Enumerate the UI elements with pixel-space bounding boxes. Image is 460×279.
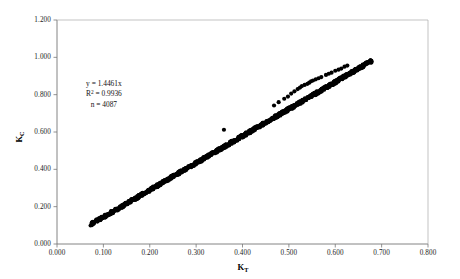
data-point (277, 100, 281, 104)
data-point (286, 94, 290, 98)
x-axis-title-subscript: T (244, 266, 248, 273)
y-axis-ticks (54, 20, 58, 244)
x-axis-tick-label: 0.400 (234, 249, 251, 257)
x-axis-tick-label: 0.100 (95, 249, 112, 257)
y-axis-tick-label: 1.000 (0, 53, 51, 61)
scatter-chart: 0.0000.1000.2000.3000.4000.5000.6000.700… (0, 0, 460, 279)
x-axis-tick-label: 0.500 (281, 249, 298, 257)
y-axis-tick-label: 0.800 (0, 91, 51, 99)
x-axis-ticks (57, 244, 428, 248)
x-axis-tick-label: 0.200 (141, 249, 158, 257)
data-point (329, 71, 333, 75)
data-point (333, 82, 337, 86)
data-point (272, 103, 276, 107)
sample-size-line: n = 4087 (86, 100, 122, 110)
data-point (222, 128, 226, 132)
r-squared-line: R2 = 0.9936 (86, 89, 122, 99)
data-point (345, 63, 349, 67)
fit-annotation: y = 1.4461x R2 = 0.9936 n = 4087 (86, 79, 122, 110)
r-squared-value: = 0.9936 (95, 89, 121, 98)
y-axis-title-subscript: C (17, 131, 24, 135)
y-axis-tick-label: 0.200 (0, 203, 51, 211)
x-axis-title-base: K (238, 262, 245, 272)
y-axis-title-base: K (14, 136, 24, 143)
x-axis-tick-label: 0.000 (49, 249, 66, 257)
fit-equation: y = 1.4461x (86, 79, 122, 89)
x-axis-tick-label: 0.700 (373, 249, 390, 257)
data-point (369, 59, 373, 63)
data-point (292, 106, 296, 110)
data-point (298, 85, 302, 89)
x-axis-tick-label: 0.600 (327, 249, 344, 257)
r-squared-exponent: 2 (91, 89, 94, 95)
data-point (319, 75, 323, 79)
y-axis-tick-label: 0.000 (0, 240, 51, 248)
y-axis-tick-label: 0.600 (0, 128, 51, 136)
y-axis-tick-label: 0.400 (0, 165, 51, 173)
data-point (282, 97, 286, 101)
x-axis-title: KT (238, 262, 249, 272)
x-axis-tick-label: 0.800 (420, 249, 437, 257)
y-axis-title: KC (14, 131, 24, 142)
data-point-group (89, 58, 374, 228)
x-axis-tick-label: 0.300 (188, 249, 205, 257)
y-axis-tick-label: 1.200 (0, 16, 51, 24)
plot-area-svg (0, 0, 460, 279)
data-point (307, 81, 311, 85)
